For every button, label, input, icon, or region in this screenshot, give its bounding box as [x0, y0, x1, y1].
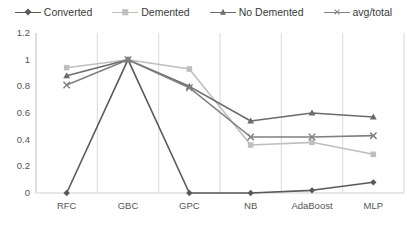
- marker-diamond-icon: [186, 190, 192, 196]
- marker-diamond-icon: [370, 179, 376, 185]
- legend-item-converted: Converted: [15, 7, 92, 18]
- x-axis-tick-label: AdaBoost: [281, 200, 342, 220]
- chart-container: Converted Demented No Demented avg/total…: [0, 0, 407, 227]
- marker-square-icon: [309, 140, 315, 146]
- x-axis-tick-label: GBC: [97, 200, 158, 220]
- legend-marker-diamond-icon: [24, 8, 31, 15]
- chart-legend: Converted Demented No Demented avg/total: [0, 0, 407, 24]
- x-axis-tick-label: GPC: [159, 200, 220, 220]
- legend-item-no-demented: No Demented: [210, 7, 304, 18]
- legend-swatch-converted: [15, 7, 41, 18]
- legend-label-no-demented: No Demented: [239, 7, 304, 18]
- legend-swatch-demented: [112, 7, 138, 18]
- legend-label-avg-total: avg/total: [353, 7, 393, 18]
- x-axis-tick-label: NB: [220, 200, 281, 220]
- legend-swatch-avg-total: [324, 7, 350, 18]
- legend-label-demented: Demented: [141, 7, 189, 18]
- legend-marker-x-icon: [333, 9, 340, 16]
- legend-marker-square-icon: [123, 9, 129, 15]
- marker-square-icon: [371, 152, 377, 158]
- marker-diamond-icon: [247, 190, 253, 196]
- x-axis: RFCGBCGPCNBAdaBoostMLP: [36, 200, 404, 220]
- x-axis-tick-label: MLP: [343, 200, 404, 220]
- legend-label-converted: Converted: [44, 7, 92, 18]
- legend-marker-triangle-icon: [220, 9, 226, 15]
- plot-area: 00.20.40.60.811.2 RFCGBCGPCNBAdaBoostMLP: [0, 24, 407, 227]
- legend-swatch-no-demented: [210, 7, 236, 18]
- marker-square-icon: [248, 142, 254, 148]
- chart-canvas: [0, 24, 407, 227]
- marker-square-icon: [64, 65, 70, 71]
- marker-square-icon: [187, 66, 193, 72]
- x-axis-tick-label: RFC: [36, 200, 97, 220]
- legend-item-avg-total: avg/total: [324, 7, 393, 18]
- legend-item-demented: Demented: [112, 7, 189, 18]
- marker-diamond-icon: [63, 190, 69, 196]
